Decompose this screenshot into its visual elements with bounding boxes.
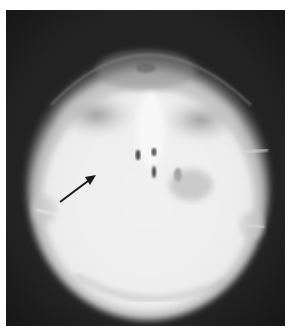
radiograph-frame	[6, 10, 285, 326]
skull-xray-image	[6, 10, 285, 326]
